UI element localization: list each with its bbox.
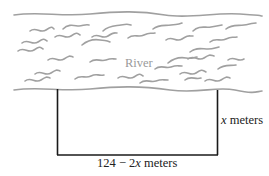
- side-length-label: x meters: [221, 114, 263, 127]
- river-bottom-bank: [14, 87, 262, 93]
- bottom-length-label: 124 − 2x meters: [97, 157, 177, 170]
- river-label: River: [125, 57, 153, 70]
- river-top-bank: [14, 12, 262, 16]
- bottom-length-unit: meters: [141, 156, 177, 170]
- side-length-unit: meters: [227, 113, 263, 127]
- bottom-length-prefix: 124 − 2: [97, 156, 135, 170]
- fence: [57, 89, 218, 155]
- river-waves: [14, 12, 262, 93]
- river-fence-diagram: [0, 0, 269, 176]
